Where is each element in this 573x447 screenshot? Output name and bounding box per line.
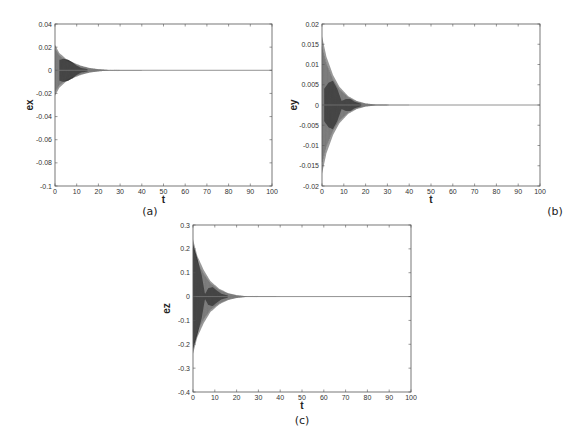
x-tick-label: 100 xyxy=(405,394,417,401)
y-tick-label: 0.1 xyxy=(180,269,190,276)
y-tick-label: -0.1 xyxy=(178,317,190,324)
x-tick-label: 60 xyxy=(320,394,328,401)
x-axis-label: t xyxy=(300,400,304,411)
y-axis-label: ez xyxy=(161,303,172,314)
x-tick-label: 10 xyxy=(211,394,219,401)
y-tick-label: -0.3 xyxy=(178,365,190,372)
y-tick-label: 0.3 xyxy=(180,222,190,229)
y-tick-label: -0.4 xyxy=(178,389,190,396)
y-tick-label: 0 xyxy=(186,293,190,300)
x-tick-label: 0 xyxy=(191,394,195,401)
plot-area-2 xyxy=(193,239,411,354)
x-tick-label: 70 xyxy=(342,394,350,401)
chart-c-svg: 0102030405060708090100-0.4-0.3-0.2-0.100… xyxy=(0,0,573,447)
x-tick-label: 30 xyxy=(255,394,263,401)
y-tick-label: 0.2 xyxy=(180,245,190,252)
axes-frame xyxy=(193,225,411,392)
x-tick-label: 40 xyxy=(276,394,284,401)
x-tick-label: 20 xyxy=(233,394,241,401)
y-tick-label: -0.2 xyxy=(178,341,190,348)
x-tick-label: 90 xyxy=(385,394,393,401)
x-tick-label: 80 xyxy=(364,394,372,401)
chart-panel-c: 0102030405060708090100-0.4-0.3-0.2-0.100… xyxy=(0,0,573,447)
caption-c: (c) xyxy=(287,414,317,427)
